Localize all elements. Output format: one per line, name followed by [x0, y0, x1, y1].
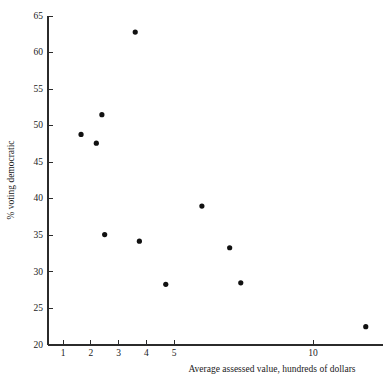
y-tick-label: 25	[34, 303, 44, 313]
plot-canvas: 20253035404550556065 1234510 Average ass…	[0, 0, 390, 383]
axes	[48, 16, 383, 345]
x-axis-title: Average assessed value, hundreds of doll…	[188, 364, 355, 374]
data-point	[99, 112, 104, 117]
data-point	[227, 245, 232, 250]
y-tick-label: 65	[34, 11, 44, 21]
data-points	[78, 29, 368, 329]
x-tick-label: 5	[172, 348, 177, 358]
x-tick-label: 10	[308, 348, 318, 358]
y-tick-label: 35	[34, 230, 44, 240]
y-tick-label: 40	[34, 193, 44, 203]
x-tick-label: 4	[144, 348, 149, 358]
y-tick-label: 20	[34, 340, 44, 350]
scatter-chart: 20253035404550556065 1234510 Average ass…	[0, 0, 390, 383]
data-point	[133, 29, 138, 34]
y-tick-label: 60	[34, 47, 44, 57]
y-tick-label: 50	[34, 120, 44, 130]
data-point	[137, 239, 142, 244]
y-axis-ticks: 20253035404550556065	[34, 11, 54, 350]
data-point	[94, 141, 99, 146]
x-tick-label: 2	[88, 348, 93, 358]
data-point	[163, 282, 168, 287]
data-point	[363, 324, 368, 329]
x-tick-label: 3	[116, 348, 121, 358]
y-tick-label: 55	[34, 84, 44, 94]
x-axis-ticks: 1234510	[61, 340, 318, 358]
data-point	[238, 280, 243, 285]
data-point	[78, 132, 83, 137]
data-point	[102, 232, 107, 237]
y-axis-title: % voting democratic	[6, 140, 16, 219]
x-tick-label: 1	[61, 348, 66, 358]
data-point	[199, 203, 204, 208]
y-tick-label: 45	[34, 157, 44, 167]
y-tick-label: 30	[34, 267, 44, 277]
